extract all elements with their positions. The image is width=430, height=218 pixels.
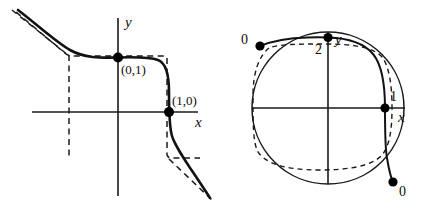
point-1-0-dot — [164, 107, 174, 117]
point-lower-right-zero-label: 0 — [399, 184, 406, 199]
point-0-1-label: (0,1) — [121, 62, 146, 77]
y-axis-label: y — [123, 14, 132, 30]
x-axis-label: x — [194, 114, 202, 130]
point-top-two-label: 2 — [315, 42, 322, 57]
dashed-lower-tail — [169, 159, 212, 200]
point-upper-left-zero-dot — [255, 41, 264, 50]
solid-arc-curve — [260, 37, 393, 182]
figure-root: y x (0,1) (1,0) y x 0 2 1 0 — [0, 0, 430, 218]
point-1-0-label: (1,0) — [172, 93, 197, 108]
point-upper-left-zero-label: 0 — [241, 32, 248, 47]
point-top-two-dot — [323, 33, 332, 42]
point-lower-right-zero-dot — [388, 177, 397, 186]
point-right-one-dot — [380, 103, 389, 112]
point-0-1-dot — [113, 53, 123, 63]
x-axis-label: x — [397, 109, 405, 125]
dashed-closed-curve — [253, 44, 392, 170]
point-right-one-label: 1 — [390, 89, 397, 104]
cartesian-plane-panel: y x (0,1) (1,0) — [0, 0, 215, 218]
projective-disk-panel: y x 0 2 1 0 — [215, 0, 430, 218]
y-axis-label: y — [333, 31, 342, 47]
